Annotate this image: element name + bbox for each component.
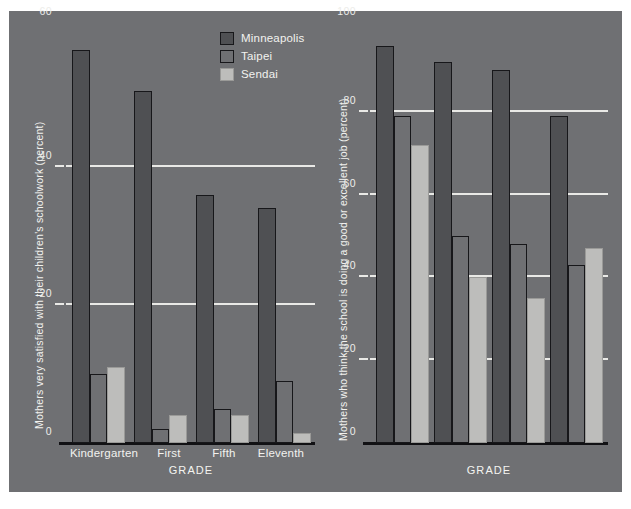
bar-group bbox=[258, 29, 312, 443]
y-tick-label-20: 20 bbox=[344, 342, 356, 354]
bar-group bbox=[434, 29, 486, 443]
legend-label-taipei: Taipei bbox=[241, 50, 272, 62]
bar bbox=[394, 116, 412, 443]
bar bbox=[411, 145, 429, 443]
legend-swatch-icon-sendai bbox=[220, 68, 234, 81]
y-tick-label-40: 40 bbox=[40, 149, 52, 161]
bar-group bbox=[134, 29, 188, 443]
chart-panel-left: Mothers very satisfied with their childr… bbox=[9, 11, 327, 492]
y-tick-20 bbox=[55, 303, 64, 305]
bar bbox=[527, 298, 545, 443]
bar bbox=[376, 46, 394, 443]
bar bbox=[550, 116, 568, 443]
bar bbox=[169, 415, 187, 443]
x-axis-category-label: Kindergarten bbox=[70, 447, 138, 459]
bar-group bbox=[550, 29, 602, 443]
figure-plate: Mothers very satisfied with their childr… bbox=[9, 11, 622, 492]
bar bbox=[196, 195, 214, 443]
y-axis-title-left: Mothers very satisfied with their childr… bbox=[33, 122, 45, 429]
y-tick-40 bbox=[55, 165, 64, 167]
x-axis-category-label: Fifth bbox=[212, 447, 235, 459]
y-tick-label-100: 100 bbox=[337, 5, 356, 17]
bar-group bbox=[196, 29, 250, 443]
y-tick-label-0: 0 bbox=[46, 425, 52, 437]
legend-item-minneapolis: Minneapolis bbox=[220, 30, 305, 46]
legend-left: Minneapolis Taipei Sendai bbox=[220, 30, 305, 82]
x-axis-category-label: First bbox=[157, 447, 180, 459]
x-axis-title-left: GRADE bbox=[169, 464, 214, 476]
bar bbox=[492, 70, 510, 443]
legend-label-sendai: Sendai bbox=[241, 68, 278, 80]
bar bbox=[214, 409, 232, 444]
y-tick-40 bbox=[359, 275, 368, 277]
legend-label-minneapolis: Minneapolis bbox=[241, 32, 305, 44]
bar bbox=[568, 265, 586, 443]
legend-swatch-icon-minneapolis bbox=[220, 32, 234, 45]
bar-group bbox=[492, 29, 544, 443]
y-tick-label-60: 60 bbox=[40, 5, 52, 17]
bar bbox=[90, 374, 108, 443]
legend-swatch-icon-taipei bbox=[220, 50, 234, 63]
bar bbox=[231, 415, 249, 443]
chart-panel-right: Mothers who think the school is doing a … bbox=[327, 11, 622, 492]
legend-item-taipei: Taipei bbox=[220, 48, 305, 64]
y-tick-20 bbox=[359, 358, 368, 360]
bar bbox=[452, 236, 470, 443]
y-tick-80 bbox=[359, 110, 368, 112]
y-tick-label-0: 0 bbox=[350, 425, 356, 437]
y-tick-label-40: 40 bbox=[344, 259, 356, 271]
bar bbox=[107, 367, 125, 443]
bar bbox=[258, 208, 276, 443]
figure-page: Mothers very satisfied with their childr… bbox=[0, 0, 631, 509]
bar bbox=[152, 429, 170, 443]
bar bbox=[510, 244, 528, 443]
bar bbox=[434, 62, 452, 443]
x-axis-title-right: GRADE bbox=[467, 464, 512, 476]
bar bbox=[276, 381, 294, 443]
y-tick-label-20: 20 bbox=[40, 287, 52, 299]
bar bbox=[134, 91, 152, 443]
bar bbox=[469, 277, 487, 443]
x-axis-category-label: Eleventh bbox=[258, 447, 304, 459]
plot-area-left: 0204060 bbox=[66, 29, 315, 443]
y-tick-label-60: 60 bbox=[344, 177, 356, 189]
y-tick-label-80: 80 bbox=[344, 94, 356, 106]
bar-group bbox=[72, 29, 126, 443]
bar bbox=[293, 433, 311, 443]
y-tick-60 bbox=[359, 193, 368, 195]
bar bbox=[585, 248, 603, 443]
bar bbox=[72, 50, 90, 443]
bar-group bbox=[376, 29, 428, 443]
plot-area-right: 020406080100 bbox=[370, 29, 608, 443]
legend-item-sendai: Sendai bbox=[220, 66, 305, 82]
